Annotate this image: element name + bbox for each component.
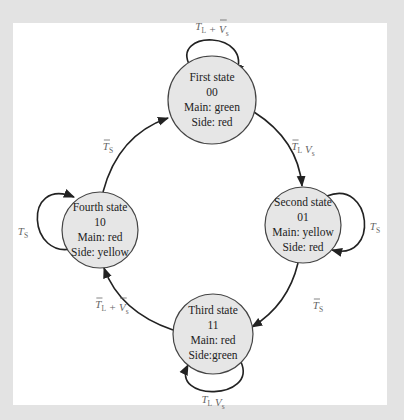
state-name: Third state — [188, 304, 238, 316]
label-loop-third: TL Vs — [201, 393, 224, 411]
state-third: Third state 11 Main: red Side:green — [173, 294, 253, 374]
condition-text: TS — [370, 220, 380, 235]
label-loop-first: TL + Vs — [195, 20, 228, 38]
label-third-fourth: TL + Vs — [95, 298, 128, 316]
label-loop-second: TS — [370, 220, 380, 235]
state-code: 11 — [207, 319, 218, 331]
condition-text: TL Vs — [201, 393, 224, 411]
label-first-second: TL Vs — [291, 140, 314, 158]
edge-second-to-third — [252, 263, 298, 327]
state-side: Side: red — [282, 241, 323, 253]
state-main: Main: red — [190, 334, 235, 346]
condition-text: TS — [103, 140, 113, 155]
state-circle — [168, 56, 256, 144]
state-main: Main: green — [184, 101, 240, 114]
edge-third-to-fourth — [104, 268, 173, 330]
state-main: Main: red — [77, 231, 122, 243]
condition-text: TL + Vs — [195, 20, 228, 38]
state-name: Second state — [274, 196, 332, 208]
state-code: 10 — [94, 216, 106, 228]
condition-text: TL Vs — [291, 140, 314, 158]
state-second: Second state 01 Main: yellow Side: red — [265, 187, 341, 263]
label-loop-fourth: TS — [18, 225, 28, 240]
state-name: Fourth state — [73, 201, 128, 213]
condition-text: TL + Vs — [95, 298, 128, 316]
state-main: Main: yellow — [272, 226, 334, 239]
state-fourth: Fourth state 10 Main: red Side: yellow — [62, 192, 138, 268]
state-side: Side: red — [191, 116, 232, 128]
edge-fourth-to-first — [103, 118, 168, 192]
state-first: First state 00 Main: green Side: red — [168, 56, 256, 144]
state-side: Side:green — [188, 349, 237, 362]
state-name: First state — [189, 71, 234, 83]
state-code: 01 — [297, 211, 309, 223]
label-fourth-first: TS — [103, 140, 113, 155]
condition-text: TS — [18, 225, 28, 240]
state-code: 00 — [206, 86, 218, 98]
label-second-third: TS — [313, 299, 323, 314]
state-side: Side: yellow — [71, 246, 130, 259]
state-diagram: First state 00 Main: green Side: red Sec… — [0, 0, 404, 420]
condition-text: TS — [313, 299, 323, 314]
